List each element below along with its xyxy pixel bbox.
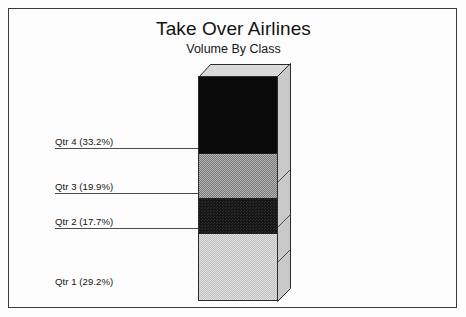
chart-title: Take Over Airlines: [9, 18, 458, 40]
callout-label-qtr-2: Qtr 2 (17.7%): [55, 216, 113, 227]
leader-line-qtr-3: [55, 193, 199, 194]
chart-frame-border: Take Over Airlines Volume By Class Qtr 4…: [8, 8, 457, 308]
bar-front-face: [198, 76, 278, 301]
callout-label-qtr-4: Qtr 4 (33.2%): [55, 136, 113, 147]
callout-label-qtr-3: Qtr 3 (19.9%): [55, 181, 113, 192]
chart-subtitle: Volume By Class: [9, 41, 458, 57]
callout-qtr-2: Qtr 2 (17.7%): [55, 215, 199, 229]
callout-qtr-1: Qtr 1 (29.2%): [55, 275, 199, 289]
bar-segment-qtr-3: [199, 153, 277, 198]
chart-canvas: Take Over Airlines Volume By Class Qtr 4…: [0, 0, 466, 317]
bar-segment-qtr-1: [199, 233, 277, 300]
callout-label-qtr-1: Qtr 1 (29.2%): [55, 276, 113, 287]
stacked-bar-3d: [198, 63, 308, 301]
bar-segment-qtr-4: [199, 77, 277, 153]
title-block: Take Over Airlines Volume By Class: [9, 18, 458, 57]
leader-line-qtr-2: [55, 228, 199, 229]
callout-qtr-3: Qtr 3 (19.9%): [55, 180, 199, 194]
bar-segment-qtr-2: [199, 198, 277, 233]
leader-line-qtr-4: [55, 148, 199, 149]
callout-qtr-4: Qtr 4 (33.2%): [55, 135, 199, 149]
